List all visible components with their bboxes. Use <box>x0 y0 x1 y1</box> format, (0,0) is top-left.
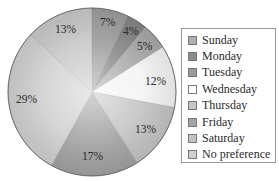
slice-label-tuesday: 5% <box>137 40 153 52</box>
legend-swatch-no-preference <box>188 150 197 159</box>
legend-item-no-preference: No preference <box>188 147 275 163</box>
legend-item-monday: Monday <box>188 48 275 64</box>
legend-swatch-monday <box>188 52 197 61</box>
legend-label: Sunday <box>202 33 238 48</box>
legend-item-sunday: Sunday <box>188 32 275 48</box>
legend-swatch-tuesday <box>188 68 197 77</box>
legend-swatch-wednesday <box>188 85 197 94</box>
legend-item-friday: Friday <box>188 114 275 130</box>
legend-swatch-saturday <box>188 134 197 143</box>
slice-label-no-preference: 13% <box>55 23 77 35</box>
legend-item-saturday: Saturday <box>188 130 275 146</box>
slice-label-monday: 4% <box>123 25 139 37</box>
legend-swatch-sunday <box>188 36 197 45</box>
legend-label: No preference <box>202 147 270 162</box>
legend-label: Saturday <box>202 131 245 146</box>
slice-label-saturday: 29% <box>16 93 38 105</box>
slice-label-sunday: 7% <box>100 16 116 28</box>
legend-swatch-friday <box>188 118 197 127</box>
legend-item-tuesday: Tuesday <box>188 65 275 81</box>
legend-item-thursday: Thursday <box>188 98 275 114</box>
legend-label: Thursday <box>202 98 247 113</box>
slice-label-wednesday: 12% <box>145 75 167 87</box>
pie-chart: 7% 4% 5% 12% 13% 17% 29% 13% <box>0 0 180 181</box>
legend-label: Wednesday <box>202 82 257 97</box>
slice-label-friday: 17% <box>82 150 104 162</box>
legend-swatch-thursday <box>188 101 197 110</box>
legend-label: Tuesday <box>202 65 242 80</box>
chart-legend: Sunday Monday Tuesday Wednesday Thursday… <box>181 28 276 163</box>
legend-label: Monday <box>202 49 242 64</box>
legend-label: Friday <box>202 115 233 130</box>
slice-label-thursday: 13% <box>135 123 157 135</box>
legend-item-wednesday: Wednesday <box>188 81 275 97</box>
